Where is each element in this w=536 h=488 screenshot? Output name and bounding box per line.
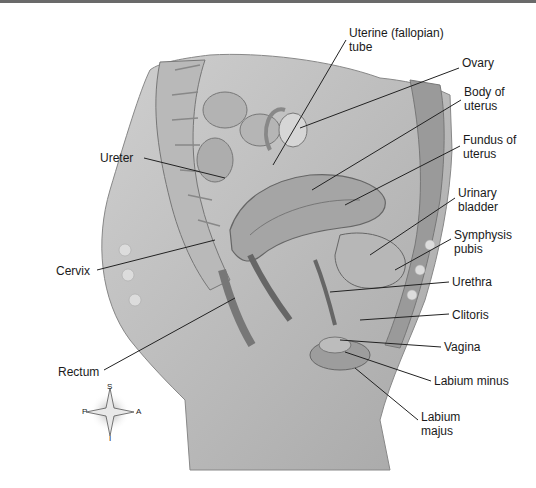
compass-superior: S xyxy=(107,380,112,394)
label-clitoris: Clitoris xyxy=(452,308,489,322)
label-urinary-bladder: Urinary bladder xyxy=(458,186,498,214)
label-rectum: Rectum xyxy=(58,365,99,379)
label-labium-majus: Labium majus xyxy=(421,410,460,438)
label-labium-minus: Labium minus xyxy=(434,374,509,388)
compass-posterior: P xyxy=(82,405,87,419)
label-ovary: Ovary xyxy=(462,56,494,70)
label-body-of-uterus: Body of uterus xyxy=(464,85,505,113)
label-symphysis-pubis: Symphysis pubis xyxy=(454,228,512,256)
label-vagina: Vagina xyxy=(444,340,480,354)
compass-anterior: A xyxy=(136,405,141,419)
label-urethra: Urethra xyxy=(452,275,492,289)
label-ureter: Ureter xyxy=(100,151,133,165)
label-uterine-tube: Uterine (fallopian) tube xyxy=(349,26,444,54)
orientation-compass xyxy=(86,388,134,436)
label-cervix: Cervix xyxy=(56,264,90,278)
compass-inferior: I xyxy=(109,432,111,446)
label-fundus-of-uterus: Fundus of uterus xyxy=(463,133,516,161)
